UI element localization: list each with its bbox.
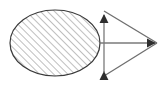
diagram-svg [0,0,166,85]
lower-diagonal-line [104,43,157,76]
diagram-canvas [0,0,166,85]
upper-diagonal-line [104,11,157,43]
